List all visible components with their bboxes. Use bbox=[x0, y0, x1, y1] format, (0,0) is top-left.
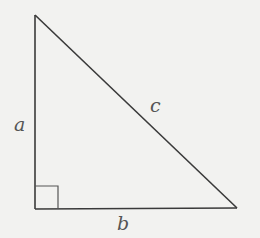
side-a-label: a bbox=[14, 115, 25, 134]
side-b-label: b bbox=[117, 214, 129, 233]
right-angle-marker bbox=[35, 186, 58, 209]
triangle-figure bbox=[0, 0, 260, 238]
hypotenuse-c-line bbox=[35, 15, 237, 208]
hypotenuse-c-label: c bbox=[150, 96, 161, 115]
side-b-line bbox=[35, 208, 237, 209]
triangle-diagram: a b c bbox=[0, 0, 260, 238]
